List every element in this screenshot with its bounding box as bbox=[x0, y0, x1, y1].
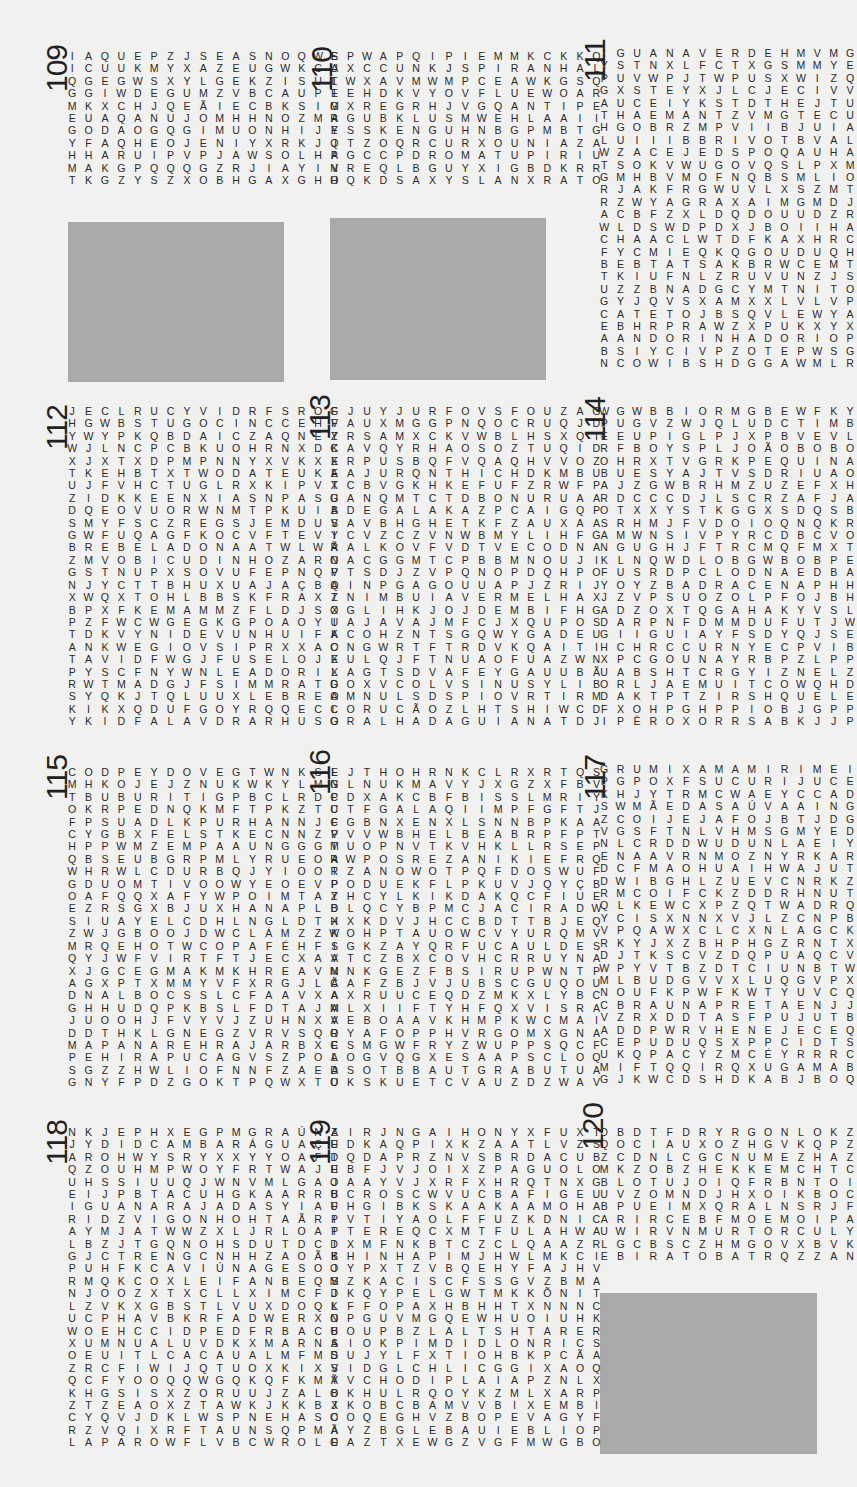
grid-letter: G bbox=[64, 878, 80, 890]
grid-letter: A bbox=[678, 579, 694, 591]
grid-letter: X bbox=[523, 1300, 539, 1312]
grid-letter: G bbox=[678, 974, 694, 986]
grid-letter: U bbox=[179, 865, 195, 877]
grid-letter: R bbox=[179, 853, 195, 865]
grid-letter: O bbox=[662, 332, 678, 344]
grid-letter: X bbox=[326, 455, 342, 467]
grid-letter: Z bbox=[375, 952, 391, 964]
grid-letter: V bbox=[596, 924, 612, 936]
grid-letter: U bbox=[490, 878, 506, 890]
grid-letter: I bbox=[113, 1349, 129, 1361]
grid-letter: H bbox=[572, 604, 588, 616]
grid-letter: L bbox=[572, 1374, 588, 1386]
grid-letter: N bbox=[244, 417, 260, 429]
grid-letter: Z bbox=[80, 616, 96, 628]
grid-letter: V bbox=[694, 949, 710, 961]
grid-letter: Y bbox=[506, 1126, 522, 1138]
grid-letter: V bbox=[97, 554, 113, 566]
grid-letter: G bbox=[392, 554, 408, 566]
grid-letter: N bbox=[474, 853, 490, 865]
grid-letter: X bbox=[146, 1424, 162, 1436]
grid-letter: X bbox=[277, 641, 293, 653]
grid-letter: P bbox=[506, 803, 522, 815]
grid-letter: Y bbox=[146, 766, 162, 778]
grid-letter: I bbox=[310, 666, 326, 678]
grid-letter: A bbox=[261, 430, 277, 442]
grid-letter: E bbox=[678, 678, 694, 690]
grid-letter: Y bbox=[375, 1287, 391, 1299]
grid-letter: Q bbox=[572, 504, 588, 516]
grid-letter: W bbox=[375, 641, 391, 653]
grid-row: GHHUDQPKBSLFDTAJM bbox=[64, 1002, 343, 1014]
grid-letter: J bbox=[612, 183, 628, 195]
grid-letter: Y bbox=[261, 865, 277, 877]
grid-row: CHAACLWTDFKAXHRCS bbox=[596, 233, 857, 245]
grid-letter: M bbox=[809, 196, 825, 208]
grid-letter: A bbox=[97, 112, 113, 124]
grid-row: DJTKSCVZDQPUAQCVY bbox=[596, 949, 857, 961]
grid-letter: A bbox=[261, 174, 277, 186]
grid-letter: P bbox=[588, 1387, 604, 1399]
grid-letter: J bbox=[793, 703, 809, 715]
grid-letter: M bbox=[113, 678, 129, 690]
grid-letter: J bbox=[727, 430, 743, 442]
grid-letter: K bbox=[727, 258, 743, 270]
grid-letter: P bbox=[457, 878, 473, 890]
grid-letter: Z bbox=[474, 989, 490, 1001]
grid-letter: O bbox=[277, 1151, 293, 1163]
grid-row: ZWJGBOOJDWCLÁMZZK bbox=[64, 927, 343, 939]
grid-letter: A bbox=[474, 1200, 490, 1212]
grid-letter: L bbox=[408, 1424, 424, 1436]
grid-letter: R bbox=[195, 1312, 211, 1324]
grid-letter: B bbox=[195, 1138, 211, 1150]
grid-letter: A bbox=[261, 816, 277, 828]
grid-letter: S bbox=[244, 50, 260, 62]
grid-letter: J bbox=[179, 1362, 195, 1374]
grid-letter: O bbox=[825, 1188, 841, 1200]
grid-letter: O bbox=[523, 405, 539, 417]
grid-letter: A bbox=[212, 1424, 228, 1436]
grid-letter: V bbox=[793, 430, 809, 442]
grid-letter: Ê bbox=[629, 715, 645, 727]
grid-letter: O bbox=[776, 332, 792, 344]
grid-letter: C bbox=[392, 678, 408, 690]
grid-letter: K bbox=[130, 62, 146, 74]
grid-letter: U bbox=[539, 1064, 555, 1076]
grid-letter: X bbox=[776, 183, 792, 195]
grid-letter: R bbox=[776, 467, 792, 479]
grid-letter: X bbox=[596, 653, 612, 665]
grid-letter: N bbox=[64, 579, 80, 591]
grid-letter: O bbox=[130, 124, 146, 136]
grid-letter: I bbox=[457, 1362, 473, 1374]
grid-letter: E bbox=[179, 1126, 195, 1138]
grid-letter: K bbox=[539, 75, 555, 87]
grid-letter: U bbox=[375, 1387, 391, 1399]
grid-row: GXREGRHJVGQANTIPE bbox=[326, 100, 605, 112]
grid-letter: C bbox=[645, 492, 661, 504]
grid-letter: B bbox=[523, 162, 539, 174]
grid-letter: C bbox=[711, 1151, 727, 1163]
grid-letter: Q bbox=[375, 162, 391, 174]
grid-letter: W bbox=[179, 940, 195, 952]
grid-row: UWIRVNMURTORCULYU bbox=[596, 1225, 857, 1237]
grid-row: IPÊROXORRSABKJJPX bbox=[596, 715, 857, 727]
grid-letter: K bbox=[310, 467, 326, 479]
grid-letter: I bbox=[572, 149, 588, 161]
grid-letter: K bbox=[457, 766, 473, 778]
grid-letter: V bbox=[97, 1300, 113, 1312]
grid-letter: V bbox=[809, 134, 825, 146]
grid-letter: Y bbox=[97, 430, 113, 442]
grid-letter: T bbox=[342, 803, 358, 815]
grid-letter: K bbox=[555, 162, 571, 174]
grid-letter: I bbox=[809, 455, 825, 467]
grid-row: EPWAPQIPIEMMKCKKQ bbox=[326, 50, 605, 62]
grid-letter: T bbox=[146, 467, 162, 479]
grid-letter: P bbox=[694, 221, 710, 233]
grid-letter: H bbox=[842, 579, 857, 591]
grid-letter: J bbox=[392, 653, 408, 665]
grid-letter: W bbox=[359, 50, 375, 62]
grid-letter: F bbox=[457, 1213, 473, 1225]
grid-letter: N bbox=[392, 1126, 408, 1138]
grid-letter: A bbox=[457, 853, 473, 865]
grid-letter: V bbox=[809, 986, 825, 998]
